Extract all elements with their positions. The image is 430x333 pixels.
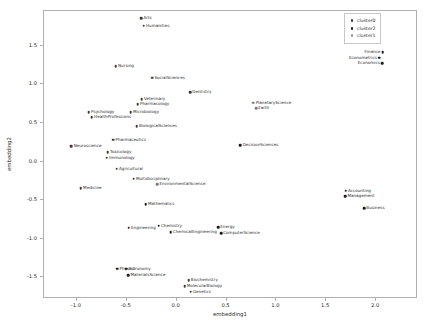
data-point-label: Humanities — [146, 24, 170, 28]
data-point — [363, 207, 366, 210]
data-point-label: Nursing — [118, 64, 134, 68]
x-tick-mark — [76, 298, 77, 301]
data-point — [125, 267, 128, 270]
data-point — [115, 65, 118, 68]
data-point — [344, 190, 347, 193]
x-tick-label: -0.5 — [121, 302, 131, 308]
legend-item-cluster1[interactable]: cluster1 — [348, 32, 376, 40]
y-tick-label: -1.5 — [27, 273, 37, 279]
legend-marker-icon — [348, 27, 356, 30]
y-tick-label: 1.5 — [29, 42, 37, 48]
legend-dot — [351, 34, 354, 37]
data-point-label: Microbiology — [133, 110, 159, 114]
data-point-label: Biochemistry — [191, 278, 218, 282]
x-tick-mark — [176, 298, 177, 301]
data-point — [112, 138, 115, 141]
data-point — [183, 285, 186, 288]
y-tick-label: -0.5 — [27, 196, 37, 202]
x-tick-mark — [375, 298, 376, 301]
data-point — [127, 274, 130, 277]
data-point — [189, 290, 192, 293]
data-point-label: Business — [366, 206, 384, 210]
data-point — [381, 51, 384, 54]
x-tick-label: 0.0 — [172, 302, 180, 308]
x-tick-label: 2.0 — [371, 302, 379, 308]
legend-marker-icon — [348, 34, 356, 37]
data-point-label: Multidisciplinary — [136, 177, 170, 181]
x-tick-mark — [126, 298, 127, 301]
legend-label: cluster0 — [357, 18, 376, 23]
data-points-layer: ArtsHumanitiesNursingSocialSciencesDenti… — [44, 11, 416, 297]
data-point-label: DecisionSciences — [243, 143, 279, 147]
data-point — [169, 231, 172, 234]
data-point-label: MaterialsScience — [130, 273, 165, 277]
y-axis-label: embedding2 — [6, 137, 12, 171]
data-point — [156, 183, 159, 186]
data-point-label: HealthProfessions — [94, 115, 131, 119]
data-point-label: ComputerScience — [223, 231, 260, 235]
legend-label: cluster1 — [357, 33, 376, 38]
data-point — [91, 116, 94, 119]
data-point-label: Immunology — [109, 156, 135, 160]
data-point — [255, 107, 258, 110]
x-tick-mark — [226, 298, 227, 301]
data-point-label: Management — [347, 194, 374, 198]
data-point — [157, 224, 160, 227]
data-point — [88, 111, 91, 114]
data-point — [378, 56, 381, 59]
data-point-label: Pharmacology — [140, 102, 169, 106]
legend-item-cluster0[interactable]: cluster0 — [348, 17, 376, 25]
data-point-label: Chemistry — [161, 224, 182, 228]
data-point-label: Medicine — [83, 186, 101, 190]
data-point — [132, 177, 135, 180]
y-tick-label: -1.0 — [27, 235, 37, 241]
legend-dot — [351, 27, 354, 30]
data-point — [344, 195, 347, 198]
data-point-label: Engineering — [131, 226, 156, 230]
data-point-label: Earth — [258, 106, 269, 110]
x-axis-label: embedding1 — [213, 311, 247, 317]
y-tick-label: 1.0 — [29, 80, 37, 86]
data-point — [107, 151, 110, 154]
x-tick-label: 1.5 — [321, 302, 329, 308]
data-point — [239, 144, 242, 147]
data-point-label: SocialSciences — [154, 76, 184, 80]
data-point — [187, 279, 190, 282]
data-point-label: Energy — [220, 225, 234, 229]
data-point-label: EnvironmentalScience — [159, 182, 205, 186]
data-point — [80, 187, 83, 190]
x-tick-mark — [275, 298, 276, 301]
data-point — [129, 111, 132, 114]
data-point — [189, 91, 192, 94]
legend[interactable]: cluster0cluster2cluster1 — [344, 13, 381, 44]
y-tick-label: 0.0 — [29, 158, 37, 164]
data-point — [144, 203, 147, 206]
data-point — [220, 232, 223, 235]
data-point — [151, 76, 154, 79]
data-point-label: Mathematics — [148, 202, 175, 206]
data-point — [106, 156, 109, 159]
data-point-label: Economics — [358, 61, 380, 65]
data-point — [70, 145, 73, 148]
data-point — [116, 267, 119, 270]
y-tick-label: 0.5 — [29, 119, 37, 125]
data-point-label: Dentistry — [192, 90, 211, 94]
data-point — [135, 125, 138, 128]
data-point-label: BiologicalSciences — [139, 124, 177, 128]
legend-dot — [351, 19, 354, 22]
data-point — [136, 103, 139, 106]
data-point-label: Astronomy — [128, 266, 150, 270]
legend-item-cluster2[interactable]: cluster2 — [348, 25, 376, 33]
legend-marker-icon — [348, 19, 356, 22]
data-point-label: Pharmaceutics — [116, 138, 146, 142]
scatter-plot-figure: embedding2 embedding1 -1.0-0.50.00.51.01… — [0, 0, 430, 333]
plot-area: ArtsHumanitiesNursingSocialSciencesDenti… — [43, 10, 417, 298]
data-point — [381, 62, 384, 65]
data-point-label: ChemicalEngineering — [173, 230, 217, 234]
data-point — [116, 168, 119, 171]
x-tick-label: -1.0 — [71, 302, 81, 308]
data-point — [217, 226, 220, 229]
x-tick-mark — [325, 298, 326, 301]
data-point — [252, 102, 255, 105]
data-point — [142, 24, 145, 27]
